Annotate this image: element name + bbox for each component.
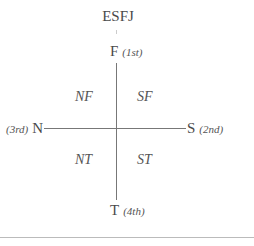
pole-bottom: T (4th) xyxy=(110,201,145,219)
horizontal-axis xyxy=(44,128,186,129)
pole-right: S (2nd) xyxy=(187,119,223,137)
pole-bottom-order: (4th) xyxy=(123,205,144,217)
quadrant-sf: SF xyxy=(137,89,153,105)
pole-top: F (1st) xyxy=(110,42,143,60)
quadrant-nt: NT xyxy=(75,152,92,168)
pole-left-letter: N xyxy=(32,120,43,136)
type-title: ESFJ xyxy=(0,8,236,25)
pole-top-order: (1st) xyxy=(122,46,142,58)
vertical-axis xyxy=(116,63,117,200)
pole-left-order: (3rd) xyxy=(6,123,28,135)
pole-left: (3rd) N xyxy=(6,119,43,137)
title-connector xyxy=(116,30,117,34)
pole-right-letter: S xyxy=(187,120,195,136)
quadrant-st: ST xyxy=(137,152,152,168)
quadrant-nf: NF xyxy=(75,89,93,105)
bottom-rule xyxy=(0,237,254,238)
pole-bottom-letter: T xyxy=(110,202,119,218)
pole-right-order: (2nd) xyxy=(199,123,223,135)
pole-top-letter: F xyxy=(110,43,118,59)
